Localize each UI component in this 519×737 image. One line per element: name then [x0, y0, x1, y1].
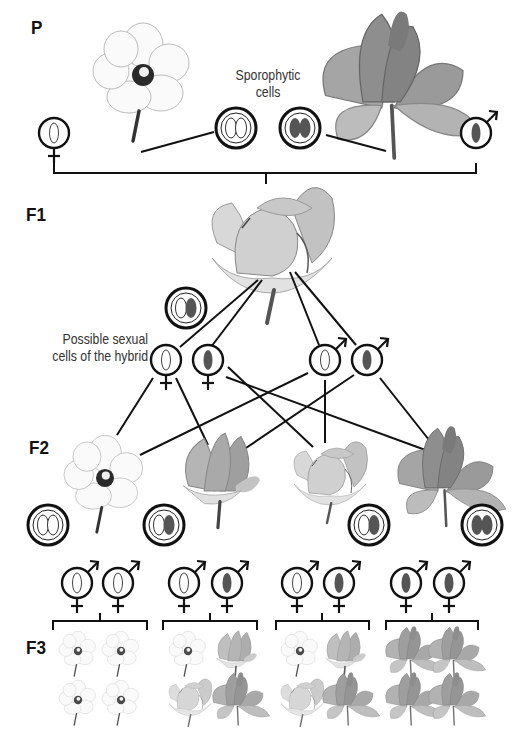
generation-label-p: P — [31, 17, 42, 39]
sexual-caption-line2: cells of the hybrid — [35, 347, 148, 364]
generation-label-f3: F3 — [26, 637, 46, 659]
generation-label-f2: F2 — [29, 437, 49, 459]
parent-white-flower — [93, 23, 189, 141]
f2-cell-light-dark-icon — [144, 505, 184, 545]
f3-gamete-light-icon — [103, 561, 139, 613]
f2-cell-light-dark-icon — [349, 505, 389, 545]
sexual-caption-line1: Possible sexual — [35, 330, 148, 347]
f1-gamete-female-dark-icon — [193, 345, 223, 390]
sporophytic-cells-caption: Sporophytic cells — [227, 66, 309, 100]
f1-cell-light-dark-icon — [166, 288, 206, 328]
parent-female-gamete-icon — [39, 118, 69, 163]
f3-gamete-dark-icon — [212, 561, 248, 613]
f2-cell-dark-dark-icon — [462, 505, 502, 545]
inheritance-diagram — [0, 0, 519, 737]
f1-gamete-male-dark-icon — [352, 338, 388, 375]
generation-label-f1: F1 — [26, 204, 46, 226]
f3-gamete-dark-icon — [434, 561, 470, 613]
f3-offspring — [59, 626, 486, 726]
f1-gamete-female-light-icon — [151, 345, 181, 390]
f3-gamete-light-icon — [282, 561, 318, 613]
f1-generation — [117, 188, 439, 455]
connector-line — [141, 132, 214, 152]
f3-gamete-row — [53, 561, 478, 630]
f3-gamete-light-icon — [62, 561, 98, 613]
sporophytic-caption-line2: cells — [227, 83, 309, 100]
f3-gamete-dark-icon — [391, 561, 427, 613]
sporophytic-caption-line1: Sporophytic — [227, 66, 309, 83]
f2-generation — [28, 426, 506, 545]
cross-bracket — [54, 163, 476, 173]
f1-gamete-male-light-icon — [310, 338, 346, 375]
f2-white-flower — [64, 435, 143, 532]
sexual-cells-caption: Possible sexual cells of the hybrid — [35, 330, 148, 364]
sporophytic-cell-light-light-icon — [216, 108, 256, 148]
sporophytic-cell-dark-dark-icon — [280, 108, 320, 148]
f3-gamete-dark-icon — [324, 561, 360, 613]
parent-dark-flower — [323, 11, 482, 158]
f3-gamete-light-icon — [169, 561, 205, 613]
f2-cell-light-light-icon — [28, 505, 68, 545]
